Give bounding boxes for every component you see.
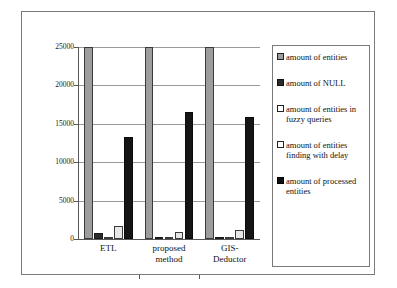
chart-figure: 0500010000150002000025000 ETLproposedmet… bbox=[21, 11, 375, 275]
x-axis-category-line: GIS- bbox=[199, 243, 260, 254]
chart-legend: amount of entitiesamount of NULLamount o… bbox=[272, 45, 370, 267]
y-axis-tick-label: 5000 bbox=[59, 197, 74, 205]
legend-item[interactable]: amount of entities in fuzzy queries bbox=[277, 104, 365, 124]
legend-item[interactable]: amount of entities finding with delay bbox=[277, 140, 365, 160]
bar bbox=[124, 137, 133, 239]
x-axis-category-labels: ETLproposedmethodGIS-Deductor bbox=[78, 243, 260, 277]
bar-group bbox=[205, 47, 254, 239]
y-axis-tick-label: 20000 bbox=[55, 81, 74, 89]
y-axis-labels: 0500010000150002000025000 bbox=[38, 47, 74, 240]
bar bbox=[185, 112, 194, 239]
legend-item-label: amount of entities finding with delay bbox=[286, 140, 365, 160]
legend-item-label: amount of entities bbox=[286, 52, 347, 62]
x-axis-category-label: proposedmethod bbox=[139, 243, 200, 265]
x-axis-category-line: Deductor bbox=[199, 254, 260, 265]
x-axis-category-line: method bbox=[139, 254, 200, 265]
legend-item[interactable]: amount of NULL bbox=[277, 78, 365, 88]
y-axis-tick bbox=[74, 124, 78, 125]
bar bbox=[84, 47, 93, 239]
bar bbox=[114, 226, 123, 239]
x-axis-category-line: ETL bbox=[78, 243, 139, 254]
legend-swatch-entities-icon bbox=[277, 53, 284, 60]
legend-item[interactable]: amount of processed entities bbox=[277, 176, 365, 196]
y-axis-tick bbox=[74, 85, 78, 86]
bar bbox=[215, 237, 224, 239]
y-axis-tick-label: 25000 bbox=[55, 43, 74, 51]
y-axis-tick bbox=[74, 239, 78, 240]
y-axis-tick bbox=[74, 162, 78, 163]
legend-swatch-delay-icon bbox=[277, 141, 284, 148]
y-axis-tick-label: 15000 bbox=[55, 120, 74, 128]
bar bbox=[225, 237, 234, 239]
legend-item-label: amount of processed entities bbox=[286, 176, 365, 196]
legend-swatch-null-icon bbox=[277, 79, 284, 86]
bar-group bbox=[84, 47, 133, 239]
y-axis-tick bbox=[74, 201, 78, 202]
y-axis-tick bbox=[74, 47, 78, 48]
y-axis-tick-label: 10000 bbox=[55, 158, 74, 166]
bar bbox=[245, 117, 254, 239]
legend-item[interactable]: amount of entities bbox=[277, 52, 365, 62]
bar bbox=[175, 232, 184, 239]
bar bbox=[94, 233, 103, 239]
y-axis-line bbox=[78, 47, 79, 240]
bar-group bbox=[145, 47, 194, 239]
x-axis-category-label: ETL bbox=[78, 243, 139, 254]
x-axis-category-label: GIS-Deductor bbox=[199, 243, 260, 265]
x-axis-category-line: proposed bbox=[139, 243, 200, 254]
legend-swatch-processed-icon bbox=[277, 177, 284, 184]
bar bbox=[235, 230, 244, 239]
bar bbox=[165, 237, 174, 239]
plot-area bbox=[78, 47, 260, 240]
x-axis-line bbox=[78, 239, 260, 240]
bar bbox=[205, 47, 214, 239]
bar bbox=[155, 237, 164, 239]
legend-item-label: amount of entities in fuzzy queries bbox=[286, 104, 365, 124]
bar bbox=[104, 237, 113, 239]
legend-item-label: amount of NULL bbox=[286, 78, 346, 88]
legend-swatch-fuzzy-icon bbox=[277, 105, 284, 112]
bar bbox=[145, 47, 154, 239]
